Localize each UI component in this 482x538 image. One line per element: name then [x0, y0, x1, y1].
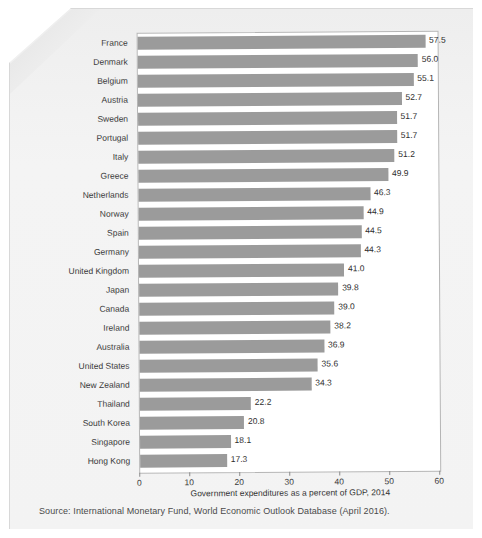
bar: [140, 397, 251, 411]
category-label: United Kingdom: [10, 262, 134, 282]
source-note: Source: International Monetary Fund, Wor…: [39, 506, 390, 516]
bar-row: 17.3: [140, 450, 440, 471]
bar: [139, 244, 361, 258]
bar-row: 46.3: [138, 184, 438, 205]
bar-chart: FranceDenmarkBelgiumAustriaSwedenPortuga…: [9, 8, 475, 531]
bar-row: 36.9: [139, 336, 439, 357]
bar: [138, 111, 397, 126]
bar-row: 22.2: [140, 393, 440, 414]
category-label: Singapore: [11, 433, 135, 453]
category-label: France: [9, 34, 133, 54]
category-label: New Zealand: [11, 376, 135, 396]
bar-value-label: 56.0: [422, 53, 439, 66]
category-label: Thailand: [11, 395, 135, 415]
category-label: Italy: [9, 148, 133, 168]
bar: [140, 435, 231, 449]
bar-row: 57.5: [138, 32, 438, 53]
category-label: Austria: [9, 91, 133, 111]
bar-row: 35.6: [140, 355, 440, 376]
bar: [138, 35, 426, 50]
bar: [139, 301, 334, 315]
bar: [139, 340, 324, 354]
bar-row: 44.9: [139, 203, 439, 224]
category-label: Belgium: [9, 72, 133, 92]
x-axis-tick-label: 50: [385, 476, 395, 486]
bar: [140, 454, 227, 468]
bar-row: 20.8: [140, 412, 440, 433]
bar: [139, 187, 371, 201]
bar-value-label: 57.5: [429, 34, 446, 47]
bar-value-label: 46.3: [374, 186, 391, 199]
x-axis-tick-label: 40: [335, 476, 345, 486]
bar-row: 49.9: [138, 165, 438, 186]
bar-row: 55.1: [138, 70, 438, 91]
bar: [138, 168, 388, 183]
bar: [139, 225, 362, 239]
category-label: Canada: [10, 300, 134, 320]
category-label: Portugal: [9, 129, 133, 149]
bar: [140, 359, 318, 373]
category-label: Hong Kong: [11, 452, 135, 472]
bar-row: 51.7: [138, 108, 438, 129]
category-label: Sweden: [9, 110, 133, 130]
x-axis-tick: [189, 472, 190, 476]
bar-value-label: 44.3: [364, 243, 381, 256]
bar-value-label: 44.5: [365, 224, 382, 237]
bar-value-label: 51.7: [401, 110, 418, 123]
bar-row: 52.7: [138, 89, 438, 110]
category-label: Spain: [10, 224, 134, 244]
page-sheet: FranceDenmarkBelgiumAustriaSwedenPortuga…: [9, 8, 475, 531]
bar: [140, 378, 312, 392]
bar-value-label: 38.2: [334, 319, 351, 332]
x-axis-tick-label: 0: [137, 478, 142, 488]
category-label: United States: [11, 357, 135, 377]
bar-value-label: 39.0: [338, 300, 355, 313]
bar-row: 44.5: [139, 222, 439, 243]
bar-value-label: 20.8: [248, 415, 265, 428]
category-label: Netherlands: [9, 186, 133, 206]
bar-row: 18.1: [140, 431, 440, 452]
bar-row: 44.3: [139, 241, 439, 262]
bars-area: 57.556.055.152.751.751.751.249.946.344.9…: [138, 32, 441, 471]
category-label: Japan: [10, 281, 134, 301]
bar-value-label: 51.2: [398, 148, 415, 161]
category-label: Germany: [10, 243, 134, 263]
bar-value-label: 18.1: [235, 434, 252, 447]
bar-value-label: 52.7: [405, 91, 422, 104]
category-label: Greece: [9, 167, 133, 187]
bar-row: 51.2: [138, 146, 438, 167]
bar-row: 56.0: [138, 51, 438, 72]
x-axis-tick: [289, 472, 290, 476]
bar: [139, 320, 330, 334]
x-axis-tick: [389, 471, 390, 475]
bar-value-label: 34.3: [315, 376, 332, 389]
bar-row: 39.0: [139, 298, 439, 319]
category-axis-labels: FranceDenmarkBelgiumAustriaSwedenPortuga…: [9, 34, 135, 472]
x-axis-tick: [139, 473, 140, 477]
bar: [138, 92, 402, 107]
bar-value-label: 55.1: [417, 72, 434, 85]
category-label: Australia: [10, 338, 134, 358]
x-axis-tick: [239, 472, 240, 476]
bar-row: 38.2: [139, 317, 439, 338]
bar: [138, 54, 418, 69]
bar-row: 51.7: [138, 127, 438, 148]
bar: [138, 73, 414, 88]
category-label: Norway: [10, 205, 134, 225]
bar-row: 34.3: [140, 374, 440, 395]
bar-row: 41.0: [139, 260, 439, 281]
x-axis-tick-label: 10: [185, 477, 195, 487]
bar-value-label: 44.9: [367, 205, 384, 218]
bar-value-label: 17.3: [231, 453, 248, 466]
x-axis-title: Government expenditures as a percent of …: [139, 487, 441, 499]
bar-value-label: 51.7: [401, 129, 418, 142]
bar-value-label: 39.8: [342, 281, 359, 294]
x-axis-tick: [439, 471, 440, 475]
bar: [139, 263, 344, 277]
bar-row: 39.8: [139, 279, 439, 300]
bar: [140, 416, 244, 430]
x-axis-tick: [339, 471, 340, 475]
bar: [138, 149, 394, 164]
bar-value-label: 41.0: [348, 262, 365, 275]
bar: [139, 206, 364, 220]
